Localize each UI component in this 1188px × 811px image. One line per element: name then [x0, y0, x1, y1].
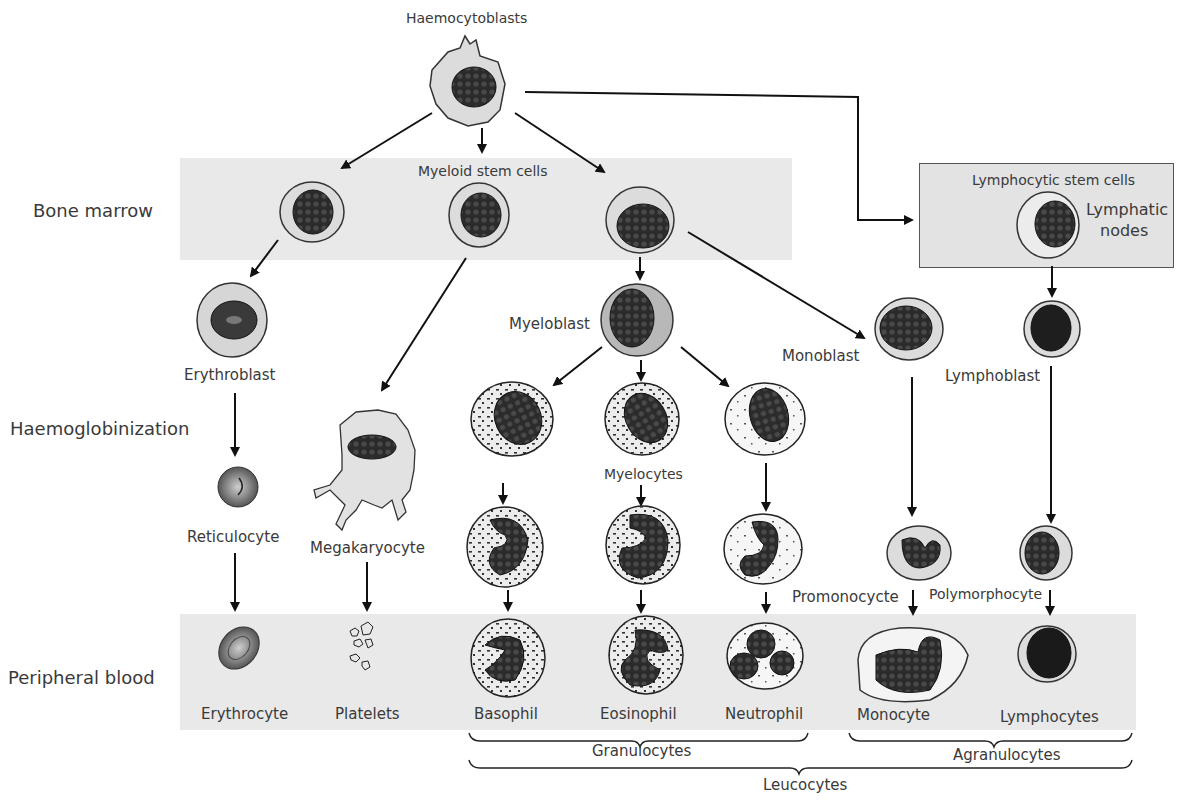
lymphoblast-cell	[1024, 301, 1080, 357]
haemoglobinization-label: Haemoglobinization	[10, 418, 189, 439]
lymphoblast-label: Lymphoblast	[945, 367, 1040, 385]
neutrophil-cell	[727, 623, 803, 689]
megakaryocyte-cell	[314, 410, 415, 530]
bone-marrow-label: Bone marrow	[33, 200, 153, 221]
lymphocytic-stem-cells-label: Lymphocytic stem cells	[972, 172, 1135, 188]
neutrophil-metamyelocyte-cell	[724, 514, 802, 584]
basophil-metamyelocyte-cell	[467, 507, 543, 587]
neutrophil-myelocyte-cell	[725, 383, 805, 455]
basophil-label: Basophil	[474, 705, 538, 723]
lymphatic-nodes-label-line1: Lymphatic	[1086, 200, 1168, 219]
monocyte-label: Monocyte	[857, 706, 930, 724]
myeloblast-label: Myeloblast	[509, 315, 590, 333]
promonocyte-cell	[887, 526, 951, 580]
polymorphocyte-cell	[1020, 526, 1072, 580]
eosinophil-label: Eosinophil	[600, 705, 677, 723]
peripheral-blood-label: Peripheral blood	[8, 667, 155, 688]
myelocytes-label: Myelocytes	[604, 466, 683, 482]
erythrocyte-label: Erythrocyte	[201, 705, 288, 723]
lymphocyte-cell	[1018, 626, 1076, 682]
erythroblast-label: Erythroblast	[184, 366, 276, 384]
lymphocytes-label: Lymphocytes	[1000, 708, 1099, 726]
eosinophil-metamyelocyte-cell	[606, 506, 680, 584]
haemocytoblast-cell	[430, 36, 505, 126]
myeloid-stem-cell-1	[280, 182, 344, 242]
myeloid-stem-cell-3	[606, 187, 674, 253]
diagram-drawing	[0, 0, 1188, 811]
platelets-cells	[350, 622, 373, 670]
monoblast-cell	[875, 298, 943, 360]
reticulocyte-label: Reticulocyte	[187, 528, 279, 546]
platelets-label: Platelets	[335, 705, 400, 723]
neutrophil-label: Neutrophil	[725, 705, 803, 723]
promonocyte-label: Promonocycte	[792, 588, 899, 606]
monocyte-cell	[858, 628, 968, 702]
agranulocytes-bracket	[849, 733, 1132, 747]
myeloblast-cell	[601, 284, 673, 356]
lymphatic-nodes-label-line2: nodes	[1100, 221, 1148, 240]
megakaryocyte-label: Megakaryocyte	[310, 539, 425, 557]
leucocytes-label: Leucocytes	[763, 776, 847, 794]
basophil-cell	[471, 619, 545, 697]
erythroblast-cell	[197, 283, 267, 357]
myeloid-stem-cells-label: Myeloid stem cells	[418, 163, 548, 179]
agranulocytes-label: Agranulocytes	[953, 746, 1061, 764]
eosinophil-myelocyte-cell	[605, 383, 679, 455]
erythrocyte-cell	[210, 619, 267, 677]
granulocytes-label: Granulocytes	[592, 742, 691, 760]
lymphocytic-stem-cell	[1017, 192, 1079, 258]
haemocytoblasts-label: Haemocytoblasts	[406, 10, 527, 26]
basophil-myelocyte-cell	[471, 382, 553, 456]
myeloid-stem-cell-2	[449, 183, 509, 247]
reticulocyte-cell	[218, 467, 258, 507]
monoblast-label: Monoblast	[782, 347, 859, 365]
eosinophil-cell	[609, 616, 683, 694]
polymorphocyte-label: Polymorphocyte	[929, 586, 1042, 602]
